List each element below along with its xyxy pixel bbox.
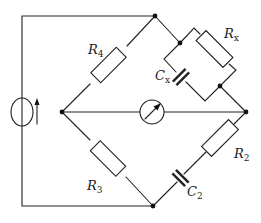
galvanometer	[140, 100, 164, 124]
arrow-up-icon	[35, 98, 40, 124]
node-top	[153, 14, 158, 19]
label-r3: R3	[86, 178, 103, 195]
rx-cx-parallel: Rx Cx	[155, 16, 246, 112]
resistor-r2	[202, 120, 239, 157]
current-source	[11, 98, 40, 126]
node-rx-cx-split	[178, 41, 183, 46]
node-left	[60, 110, 65, 115]
node-rx-cx-join	[218, 84, 223, 89]
r2-c2-series: R2 C2	[153, 112, 250, 206]
label-rx: Rx	[223, 26, 239, 43]
node-right	[244, 110, 249, 115]
r4-branch: R4	[62, 16, 155, 112]
label-r4: R4	[87, 42, 104, 59]
r3-branch: R3	[62, 112, 153, 206]
label-r2: R2	[233, 146, 250, 163]
label-c2: C2	[187, 184, 203, 201]
resistor-r3	[90, 141, 125, 176]
circuit-svg: R4 R3 Rx Cx	[0, 0, 261, 223]
label-cx: Cx	[155, 68, 170, 85]
circuit-diagram: R4 R3 Rx Cx	[0, 0, 261, 223]
galvanometer-branch	[62, 100, 246, 124]
node-bottom	[151, 204, 156, 209]
